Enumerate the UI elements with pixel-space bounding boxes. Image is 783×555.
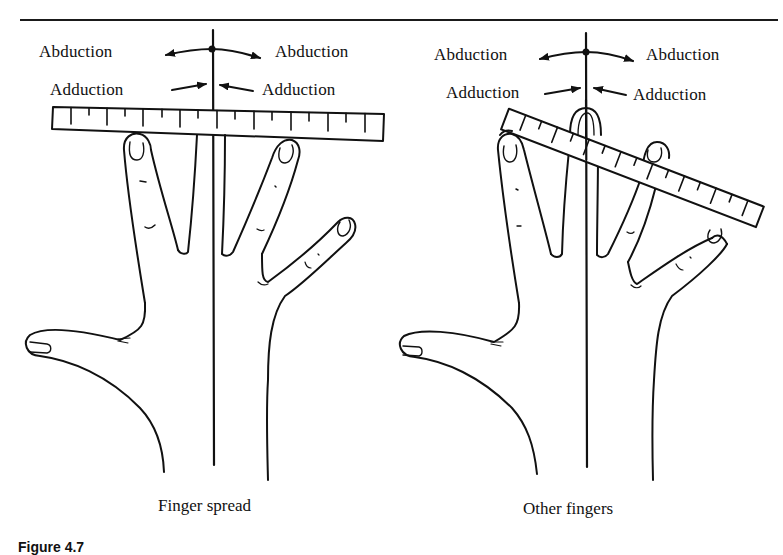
left-panel-caption: Finger spread — [158, 496, 251, 516]
right-abduction-arc-right — [586, 52, 633, 61]
left-adduction-arrow-left — [172, 84, 206, 90]
left-thumb-nail — [30, 342, 51, 353]
right-panel — [400, 33, 764, 480]
left-index-nail — [129, 142, 143, 160]
right-panel-caption: Other fingers — [523, 499, 613, 519]
left-ruler — [52, 107, 384, 141]
left-little-nail — [338, 220, 351, 236]
right-ring-nail — [647, 148, 661, 162]
figure-caption: Figure 4.7 — [18, 539, 84, 555]
left-hand-outline — [26, 134, 356, 480]
figure-number: Figure 4.7 — [18, 539, 84, 555]
right-index-nail — [503, 145, 516, 162]
right-adduction-arrow-right — [594, 88, 626, 95]
left-abduction-arc-right — [212, 49, 260, 58]
right-thumb-nail — [403, 346, 422, 356]
right-abduction-arc-left — [540, 52, 586, 59]
left-adduction-arrow-right — [220, 85, 253, 91]
left-panel — [26, 30, 384, 480]
right-adduction-arrow-left — [545, 88, 580, 94]
left-axis-line — [213, 30, 214, 465]
right-axis-line — [586, 33, 587, 467]
left-abduction-arc-left — [166, 49, 212, 55]
left-ring-nail — [279, 145, 293, 163]
